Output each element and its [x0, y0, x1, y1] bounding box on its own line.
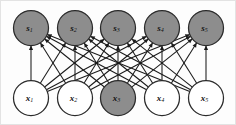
node-x1[interactable]: x1: [14, 81, 49, 116]
figure-container: x1x2x3x4x5s1s2s3s4s5: [0, 0, 236, 125]
node-subscript-s2: 2: [74, 27, 77, 33]
node-subscript-s3: 3: [116, 27, 120, 33]
node-subscript-s5: 5: [205, 27, 208, 33]
node-subscript-x5: 5: [205, 97, 208, 103]
node-x3[interactable]: x3: [101, 81, 136, 116]
node-s2[interactable]: s2: [58, 11, 93, 46]
node-x4[interactable]: x4: [145, 81, 180, 116]
node-subscript-x2: 2: [74, 97, 77, 103]
node-subscript-s4: 4: [161, 27, 164, 33]
node-s5[interactable]: s5: [189, 11, 224, 46]
node-s1[interactable]: s1: [14, 11, 49, 46]
node-subscript-x3: 3: [116, 97, 120, 103]
node-s3[interactable]: s3: [101, 11, 136, 46]
node-subscript-x4: 4: [161, 97, 164, 103]
node-subscript-x1: 1: [30, 97, 33, 103]
arrowhead-x5-to-s5: [204, 46, 208, 50]
arrowhead-x3-to-s3: [116, 46, 120, 50]
node-s4[interactable]: s4: [145, 11, 180, 46]
bipartite-graph: x1x2x3x4x5s1s2s3s4s5: [0, 0, 236, 125]
arrowhead-x1-to-s1: [29, 46, 33, 50]
node-x2[interactable]: x2: [58, 81, 93, 116]
node-subscript-s1: 1: [30, 27, 33, 33]
node-x5[interactable]: x5: [189, 81, 224, 116]
